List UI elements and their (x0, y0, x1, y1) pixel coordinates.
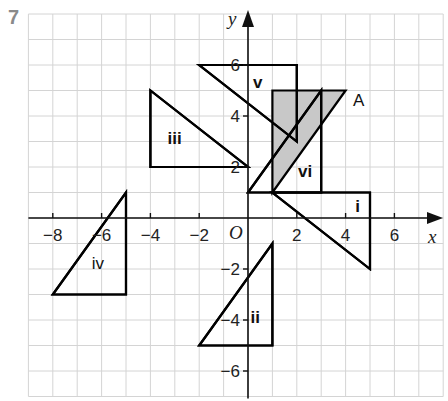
x-tick-label: 2 (292, 226, 301, 245)
shape-label-i: i (355, 197, 360, 216)
origin-label: O (229, 222, 243, 243)
x-tick-label: 6 (390, 226, 399, 245)
y-tick-label: 4 (231, 107, 240, 126)
coordinate-grid-diagram: x y O −8−6−4−2246642−2−4−6 Aiiiiiiivvvi (0, 0, 448, 401)
y-tick-label: −6 (221, 362, 240, 381)
y-tick-label: 6 (231, 56, 240, 75)
y-axis-arrow-icon (242, 10, 254, 27)
shape-label-vi: vi (298, 162, 312, 181)
x-tick-label: −6 (92, 226, 111, 245)
shape-label-A: A (353, 91, 365, 110)
shape-label-ii: ii (250, 308, 259, 327)
shape-label-iii: iii (167, 129, 181, 148)
x-axis-arrow-icon (427, 212, 443, 224)
x-axis-label: x (427, 226, 437, 247)
y-tick-label: −4 (221, 311, 240, 330)
x-tick-label: −8 (43, 226, 62, 245)
x-tick-label: 4 (341, 226, 350, 245)
y-tick-label: −2 (221, 260, 240, 279)
x-tick-label: −2 (190, 226, 209, 245)
x-tick-label: −4 (141, 226, 160, 245)
shape-label-iv: iv (92, 254, 105, 273)
shapes (53, 65, 370, 346)
y-axis-label: y (226, 8, 237, 29)
shape-label-v: v (253, 73, 263, 92)
y-tick-label: 2 (231, 158, 240, 177)
